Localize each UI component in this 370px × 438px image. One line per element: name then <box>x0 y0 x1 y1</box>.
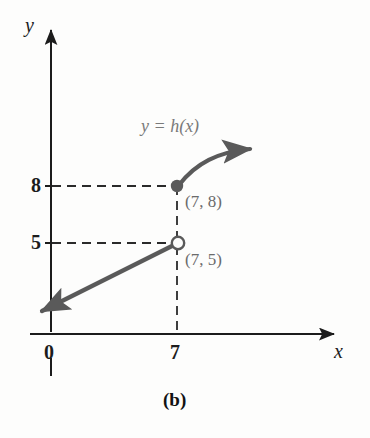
left-branch-line <box>42 244 176 311</box>
figure-caption: (b) <box>163 389 186 411</box>
figure-container: y x 8 5 0 7 y = h(x) (7, 8) (7, 5) (b) <box>0 0 370 438</box>
x-axis-label: x <box>334 340 343 363</box>
y-axis-label: y <box>25 14 34 37</box>
y-tick-label-5: 5 <box>31 231 41 254</box>
x-tick-label-7: 7 <box>170 341 180 364</box>
open-point-7-5 <box>172 237 184 249</box>
point-label-7-5: (7, 5) <box>185 250 222 270</box>
curve-equation-label: y = h(x) <box>141 116 199 137</box>
right-branch-curve <box>179 149 250 185</box>
point-label-7-8: (7, 8) <box>185 192 222 212</box>
filled-point-7-8 <box>171 180 183 192</box>
coordinate-graph <box>0 0 370 438</box>
y-tick-label-8: 8 <box>31 174 41 197</box>
origin-label: 0 <box>44 341 54 364</box>
